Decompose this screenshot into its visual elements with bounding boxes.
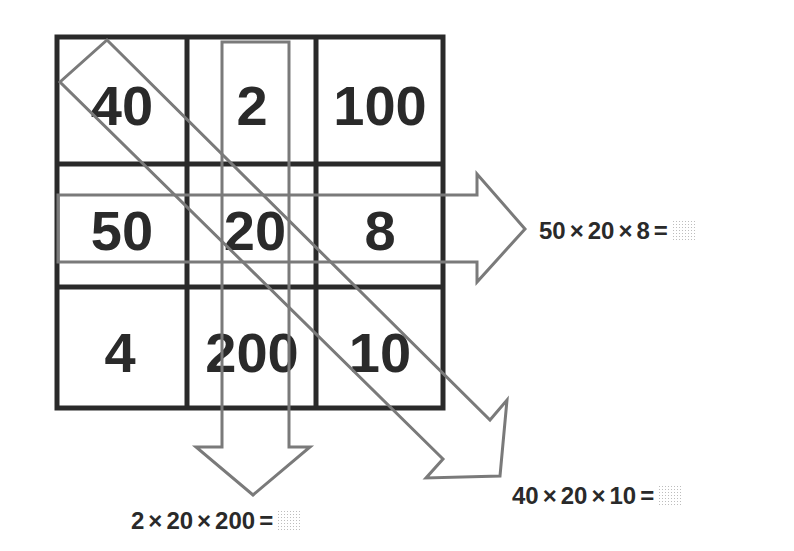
- row-factor-b: 20: [588, 217, 615, 245]
- diagonal-answer-blank[interactable]: [658, 485, 682, 507]
- magic-square-diagram: 40 2 100 50 20 8 4 200 10: [0, 0, 794, 551]
- row-factor-a: 50: [539, 217, 566, 245]
- cell-r2c1: 50: [91, 199, 153, 262]
- row-equation: 50 × 20 × 8 =: [537, 217, 698, 245]
- row-answer-blank[interactable]: [672, 220, 696, 242]
- row-factor-c: 8: [636, 217, 649, 245]
- times-sign: ×: [618, 217, 632, 245]
- grid-numbers: 40 2 100 50 20 8 4 200 10: [91, 74, 427, 384]
- times-sign: ×: [148, 507, 162, 535]
- cell-r1c3: 100: [333, 74, 426, 137]
- cell-r1c1: 40: [91, 74, 153, 137]
- times-sign: ×: [543, 482, 557, 510]
- column-factor-c: 200: [215, 507, 255, 535]
- column-factor-b: 20: [166, 507, 193, 535]
- cell-r3c2: 200: [205, 321, 298, 384]
- cell-r1c2: 2: [236, 74, 267, 137]
- times-sign: ×: [591, 482, 605, 510]
- diagonal-factor-b: 20: [561, 482, 588, 510]
- equals-sign: =: [259, 507, 273, 535]
- diagonal-factor-c: 10: [609, 482, 636, 510]
- column-answer-blank[interactable]: [277, 510, 301, 532]
- diagonal-equation: 40 × 20 × 10 =: [510, 482, 684, 510]
- cell-r3c1: 4: [104, 321, 135, 384]
- column-equation: 2 × 20 × 200 =: [129, 507, 303, 535]
- cell-r2c3: 8: [364, 199, 395, 262]
- times-sign: ×: [570, 217, 584, 245]
- column-factor-a: 2: [131, 507, 144, 535]
- equals-sign: =: [640, 482, 654, 510]
- equals-sign: =: [654, 217, 668, 245]
- diagonal-factor-a: 40: [512, 482, 539, 510]
- times-sign: ×: [197, 507, 211, 535]
